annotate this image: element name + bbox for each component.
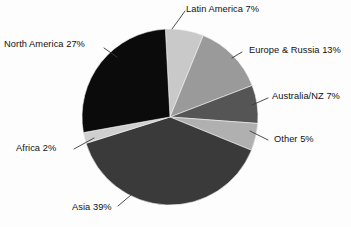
- leader-line-asia: [118, 195, 131, 206]
- pie-label-europe-russia: Europe & Russia 13%: [249, 45, 341, 56]
- pie-label-asia: Asia 39%: [72, 202, 112, 213]
- pie-label-north-america: North America 27%: [4, 39, 85, 50]
- pie-slice-north-america: [82, 29, 170, 132]
- pie-label-australia-nz: Australia/NZ 7%: [272, 91, 340, 102]
- pie-label-latin-america: Latin America 7%: [186, 4, 259, 15]
- pie-chart-canvas: [0, 0, 351, 227]
- pie-slice-group: [82, 29, 258, 205]
- leader-line-latin-america: [172, 11, 185, 29]
- pie-chart: Latin America 7% Europe & Russia 13% Aus…: [0, 0, 351, 227]
- pie-label-africa: Africa 2%: [16, 143, 56, 154]
- pie-label-other: Other 5%: [274, 134, 314, 145]
- leader-line-europe-russia: [232, 52, 242, 58]
